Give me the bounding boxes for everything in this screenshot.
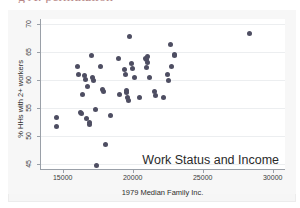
x-axis-label: 1979 Median Family Inc. <box>40 188 285 197</box>
document-cutoff-heading: g A: permutation <box>18 0 238 3</box>
y-tick-mark <box>37 52 41 53</box>
x-tick-label: 30000 <box>263 174 282 181</box>
chart-annotation: Work Status and Income <box>142 153 279 167</box>
gridline <box>41 136 285 137</box>
scatter-point <box>83 77 88 82</box>
x-tick-label: 15000 <box>53 174 72 181</box>
scatter-point <box>80 92 85 97</box>
scatter-point <box>98 64 103 69</box>
x-tick-label: 25000 <box>193 174 212 181</box>
y-tick-mark <box>37 136 41 137</box>
scatter-point <box>76 72 81 77</box>
y-axis-label: % HHs with 2+ workers <box>17 60 25 138</box>
figure-inner: % HHs with 2+ workers 455055606570 15000… <box>8 10 296 194</box>
scatter-point <box>101 89 106 94</box>
scatter-point <box>116 56 121 61</box>
y-tick-label: 55 <box>25 104 37 112</box>
scatter-point <box>145 54 150 59</box>
y-tick-mark <box>37 164 41 165</box>
scatter-point <box>108 113 113 118</box>
scatter-point <box>161 95 166 100</box>
scatter-point <box>123 72 128 77</box>
scatter-point <box>144 65 149 70</box>
x-tick-mark <box>133 169 134 173</box>
screenshot-root: g A: permutation % HHs with 2+ workers 4… <box>0 0 300 208</box>
gridline <box>41 52 285 53</box>
scatter-point <box>132 75 137 80</box>
gridline <box>41 108 285 109</box>
scatter-point <box>168 42 173 47</box>
scatter-point <box>117 92 122 97</box>
scatter-point <box>137 95 142 100</box>
y-tick-label: 65 <box>25 48 37 56</box>
scatter-point <box>126 98 131 103</box>
plot-frame: 455055606570 15000200002500030000 Work S… <box>40 19 285 170</box>
scatter-point <box>145 60 150 65</box>
scatter-point <box>54 115 59 120</box>
scatter-point <box>153 93 158 98</box>
scatter-point <box>93 107 98 112</box>
x-tick-label: 20000 <box>123 174 142 181</box>
y-tick-label: 70 <box>25 20 37 28</box>
scatter-point <box>165 72 170 77</box>
gridline <box>41 24 285 25</box>
y-tick-label: 50 <box>25 132 37 140</box>
scatter-point <box>94 163 99 168</box>
y-tick-label: 60 <box>25 76 37 84</box>
y-tick-mark <box>37 24 41 25</box>
scatter-point <box>89 53 94 58</box>
scatter-point <box>127 34 132 39</box>
figure-card: % HHs with 2+ workers 455055606570 15000… <box>8 10 296 202</box>
scatter-point <box>247 31 252 36</box>
x-tick-mark <box>273 169 274 173</box>
scatter-point <box>54 124 59 129</box>
scatter-point <box>172 53 177 58</box>
x-tick-mark <box>63 169 64 173</box>
plot-area <box>41 19 285 169</box>
scatter-point <box>169 64 174 69</box>
y-tick-mark <box>37 80 41 81</box>
scatter-point <box>91 78 96 83</box>
x-tick-mark <box>203 169 204 173</box>
scatter-point <box>130 66 135 71</box>
scatter-point <box>79 111 84 116</box>
scatter-point <box>75 64 80 69</box>
scatter-point <box>103 142 108 147</box>
scatter-point <box>85 84 90 89</box>
gridline <box>41 80 285 81</box>
y-tick-label: 45 <box>25 160 37 168</box>
scatter-point <box>87 122 92 127</box>
y-tick-mark <box>37 108 41 109</box>
scatter-point <box>166 78 171 83</box>
